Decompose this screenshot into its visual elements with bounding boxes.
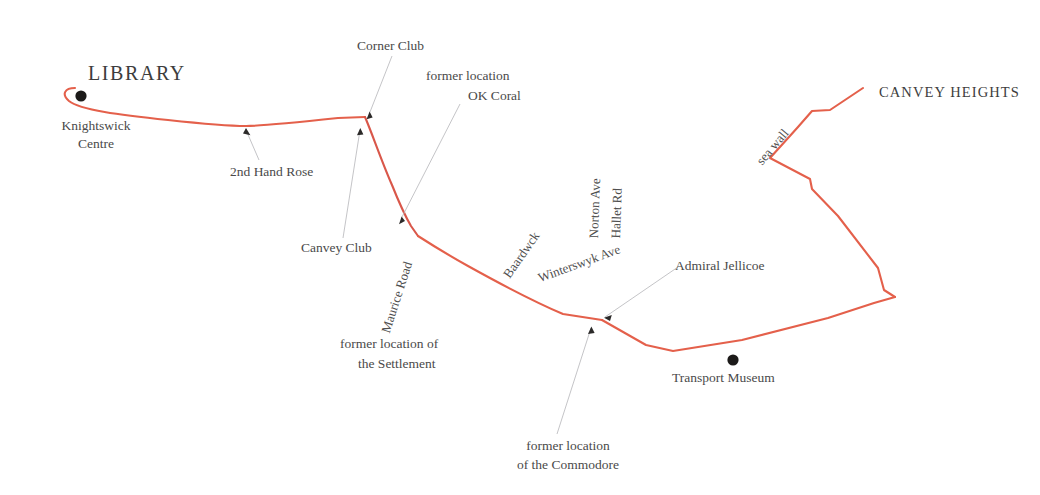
place-label-canvey-club[interactable]: Canvey Club — [301, 240, 372, 256]
leader-line-ok-coral — [402, 104, 460, 217]
library-marker-dot[interactable] — [75, 90, 86, 101]
leader-line-admiral-jellicoe — [605, 267, 678, 317]
route-line-group[interactable] — [65, 88, 895, 351]
place-label-corner-club[interactable]: Corner Club — [357, 38, 424, 54]
annotation-ok-coral-line2[interactable]: OK Coral — [426, 88, 616, 104]
street-label-hallet-rd[interactable]: Hallet Rd — [608, 188, 625, 239]
annotation-commodore-line1[interactable]: former location — [480, 438, 656, 454]
leader-line-commodore — [557, 328, 591, 434]
annotation-commodore-line2[interactable]: of the Commodore — [480, 457, 656, 473]
point-markers-group[interactable] — [75, 90, 738, 365]
place-label-knightswick-centre-line2[interactable]: Centre — [46, 136, 146, 152]
place-label-library[interactable]: LIBRARY — [88, 62, 186, 86]
leader-line-canvey-club — [343, 130, 360, 238]
transport-museum-marker-dot[interactable] — [727, 354, 738, 365]
arrowhead-corner-club — [367, 112, 373, 120]
place-label-admiral-jellicoe[interactable]: Admiral Jellicoe — [675, 258, 765, 274]
arrowhead-ok-coral — [399, 217, 405, 225]
leader-line-corner-club — [370, 56, 392, 112]
leader-arrowheads-group — [243, 112, 612, 335]
annotation-settlement-line2[interactable]: the Settlement — [340, 356, 560, 372]
arrowhead-second-hand-rose — [243, 128, 250, 135]
route-line-maurice-road[interactable] — [365, 117, 418, 236]
annotation-ok-coral-line1[interactable]: former location — [426, 68, 616, 84]
arrowhead-commodore — [588, 327, 595, 335]
map-canvas: LIBRARY CANVEY HEIGHTS Knightswick Centr… — [0, 0, 1040, 495]
annotation-settlement-line1[interactable]: former location of — [340, 336, 560, 352]
arrowhead-admiral-jellicoe — [604, 315, 612, 321]
place-label-transport-museum[interactable]: Transport Museum — [672, 370, 775, 386]
place-label-second-hand-rose[interactable]: 2nd Hand Rose — [230, 164, 313, 180]
street-label-norton-ave[interactable]: Norton Ave — [586, 178, 603, 239]
place-label-knightswick-centre-line1[interactable]: Knightswick — [46, 118, 146, 134]
arrowhead-canvey-club — [357, 128, 363, 135]
place-label-canvey-heights[interactable]: CANVEY HEIGHTS — [879, 84, 1020, 101]
route-line-sea-wall[interactable] — [770, 88, 895, 297]
route-line-south[interactable] — [602, 297, 895, 351]
